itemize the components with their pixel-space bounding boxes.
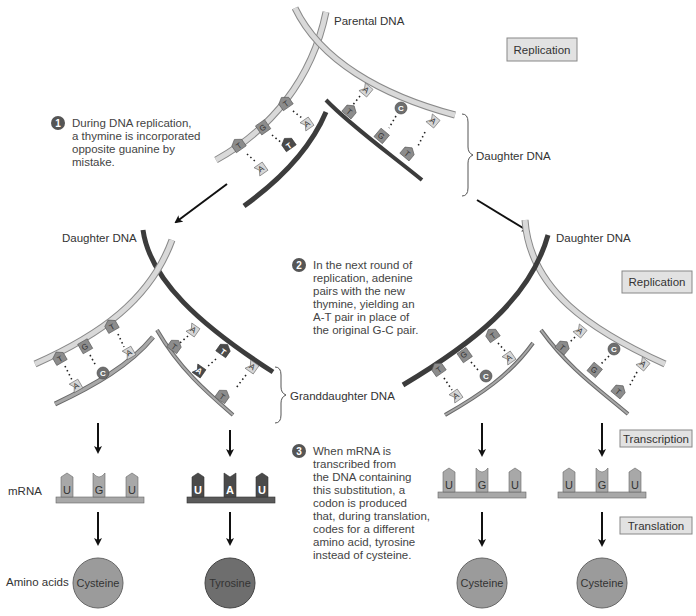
svg-text:2: 2 [296, 260, 302, 271]
daughter-dna-label-top: Daughter DNA [476, 150, 551, 162]
svg-text:3: 3 [296, 446, 302, 457]
svg-text:Replication: Replication [514, 44, 571, 56]
svg-text:Replication: Replication [629, 276, 686, 288]
svg-text:Transcription: Transcription [623, 433, 689, 445]
svg-text:U: U [258, 484, 266, 496]
mrna-codon-2-mutant: U A U [187, 473, 275, 503]
translation-box: Translation [620, 517, 692, 534]
svg-text:C: C [483, 372, 489, 381]
arrow-to-left-daughter [176, 184, 227, 222]
base-pair-G-T-mismatch: G T [255, 120, 296, 152]
column-3-expression: U G U Cysteine [438, 423, 526, 608]
mrna-label: mRNA [8, 485, 42, 497]
svg-text:In the next round of: In the next round of [313, 259, 413, 271]
svg-text:thymine, yielding an: thymine, yielding an [313, 298, 415, 310]
svg-text:the DNA containing: the DNA containing [313, 471, 411, 483]
svg-text:U: U [194, 484, 202, 496]
svg-text:U: U [631, 479, 639, 491]
svg-text:codes for a different: codes for a different [313, 523, 415, 535]
svg-text:When mRNA is: When mRNA is [313, 445, 391, 457]
replication-box-mid: Replication [622, 271, 692, 293]
arrow-to-right-daughter [477, 200, 528, 231]
svg-text:A: A [226, 484, 234, 496]
amino-acids-label: Amino acids [6, 576, 69, 588]
svg-text:the original G-C pair.: the original G-C pair. [313, 324, 418, 336]
svg-text:this substitution, a: this substitution, a [313, 484, 406, 496]
svg-text:U: U [511, 479, 519, 491]
svg-text:Cysteine: Cysteine [77, 577, 120, 589]
svg-text:U: U [63, 484, 71, 496]
mrna-codon-4: U G U [558, 468, 646, 498]
mrna-codon-1: U G U [56, 473, 144, 503]
dna-mutation-diagram: T A G T T A A T C [0, 0, 696, 616]
parental-dna-section: T A G T T A A T C [216, 8, 551, 206]
svg-text:U: U [128, 484, 136, 496]
daughter-dna-label-left: Daughter DNA [62, 232, 137, 244]
svg-text:During DNA replication,: During DNA replication, [72, 117, 192, 129]
svg-text:C: C [398, 104, 404, 113]
svg-text:C: C [100, 369, 106, 378]
granddaughter-dna-label: Granddaughter DNA [290, 390, 395, 402]
transcription-box: Transcription [620, 430, 692, 447]
svg-text:pairs with the new: pairs with the new [313, 285, 406, 297]
svg-text:a thymine is incorporated: a thymine is incorporated [72, 130, 200, 142]
left-dark-strand [143, 230, 273, 372]
parental-dna-label: Parental DNA [334, 15, 405, 27]
svg-text:U: U [565, 479, 573, 491]
svg-text:C: C [611, 345, 617, 354]
svg-text:amino acid, tyrosine: amino acid, tyrosine [313, 536, 415, 548]
daughter-dna-brace [462, 114, 473, 196]
svg-text:G: G [95, 484, 104, 496]
right-daughter-dna-section: Daughter DNA T A G C T A A T C [403, 220, 665, 415]
granddaughter-dna-brace [275, 367, 286, 423]
svg-text:Cysteine: Cysteine [581, 577, 624, 589]
svg-text:replication, adenine: replication, adenine [313, 272, 413, 284]
step-3-annotation: 3 When mRNA is transcribed from the DNA … [292, 444, 430, 561]
svg-text:G: G [598, 479, 607, 491]
daughter-strand-new-right [326, 100, 422, 180]
svg-text:transcribed from: transcribed from [313, 458, 396, 470]
step-1-annotation: 1 During DNA replication, a thymine is i… [51, 116, 200, 168]
column-1-expression: U G U Cysteine [56, 423, 144, 608]
svg-text:1: 1 [55, 118, 61, 129]
mrna-codon-3: U G U [438, 468, 526, 498]
base-pair-T-A: T A [276, 94, 313, 131]
svg-text:G: G [478, 479, 487, 491]
column-2-expression-mutant: U A U Tyrosine [187, 430, 275, 608]
svg-text:that, during translation,: that, during translation, [313, 510, 430, 522]
base-pair-right-T-A: A T [342, 83, 373, 119]
svg-text:Tyrosine: Tyrosine [209, 577, 251, 589]
svg-text:U: U [445, 479, 453, 491]
right-dark-strand [403, 235, 548, 385]
svg-text:Cysteine: Cysteine [461, 577, 504, 589]
svg-text:opposite guanine by: opposite guanine by [72, 143, 175, 155]
svg-text:A-T pair in place of: A-T pair in place of [313, 311, 410, 323]
column-4-expression: U G U Cysteine [558, 423, 646, 608]
step-2-annotation: 2 In the next round of replication, aden… [292, 258, 418, 336]
base-pair-right-C-G: C G [374, 102, 407, 144]
daughter-dna-label-right: Daughter DNA [556, 232, 631, 244]
svg-text:instead of cysteine.: instead of cysteine. [313, 549, 411, 561]
svg-text:Translation: Translation [628, 520, 684, 532]
right-new-strand-2 [541, 330, 628, 414]
replication-box-top: Replication [507, 38, 577, 61]
svg-text:codon is produced: codon is produced [313, 497, 407, 509]
svg-text:mistake.: mistake. [72, 156, 115, 168]
base-pair-right-A-T: A T [400, 114, 440, 161]
